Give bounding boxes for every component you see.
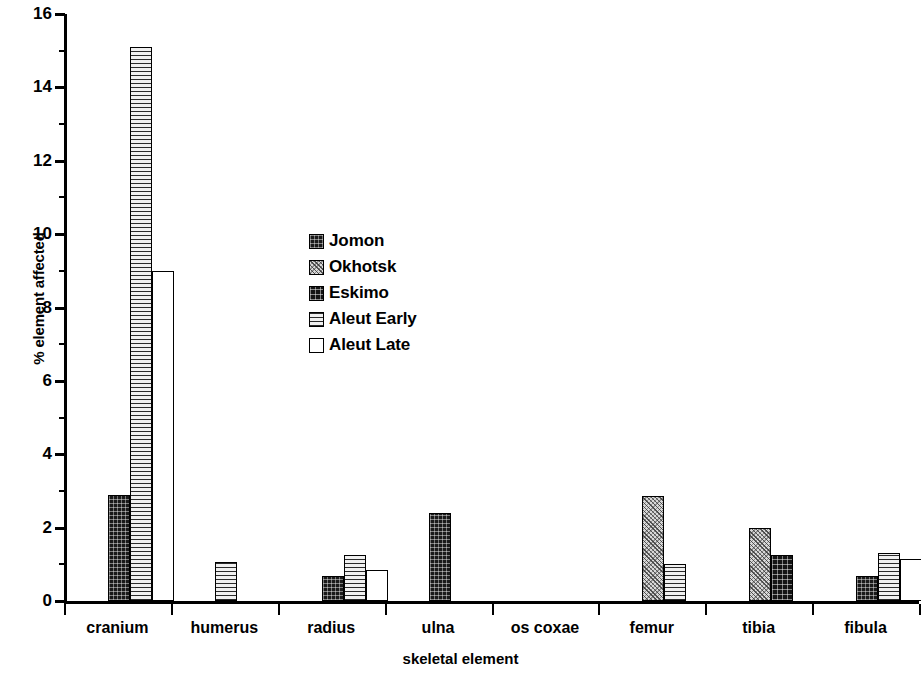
bar [322,576,344,601]
legend-item: Aleut Late [309,332,417,358]
y-axis-minor-tick [59,563,65,565]
x-axis-tick-label: ulna [422,619,455,637]
bar [900,559,921,601]
legend-item-label: Aleut Late [329,335,410,355]
y-axis-minor-tick [59,123,65,125]
y-axis-minor-tick [59,270,65,272]
y-axis-tick [55,307,65,310]
y-axis-tick [55,380,65,383]
y-axis-minor-tick [59,417,65,419]
bar [130,47,152,601]
legend-swatch-icon [309,312,324,327]
y-axis-minor-tick [59,196,65,198]
bar-chart-figure: % element affected 0246810121416 skeleta… [0,0,921,674]
x-axis-tick-label: humerus [191,619,259,637]
x-axis-tick-label: radius [307,619,355,637]
bar [771,555,793,601]
x-axis-tick [812,604,814,615]
bar [108,495,130,601]
bar [152,271,174,601]
bar [344,555,366,601]
legend-item: Jomon [309,228,417,254]
y-axis-minor-tick [59,50,65,52]
bar [749,528,771,601]
legend-swatch-icon [309,260,324,275]
bar [664,564,686,601]
y-axis-tick [55,453,65,456]
plot-area [0,0,921,674]
x-axis-tick [385,604,387,615]
x-axis-tick-label: tibia [742,619,775,637]
x-axis-tick [705,604,707,615]
x-axis-tick [598,604,600,615]
x-axis-tick-label: femur [630,619,674,637]
legend-item: Okhotsk [309,254,417,280]
y-axis-tick [55,13,65,16]
x-axis-title: skeletal element [0,650,921,667]
legend-item-label: Eskimo [329,283,389,303]
bar [642,496,664,601]
legend: JomonOkhotskEskimoAleut EarlyAleut Late [309,228,417,358]
x-axis-tick-label: os coxae [511,619,579,637]
y-axis-minor-tick [59,490,65,492]
legend-swatch-icon [309,338,324,353]
bar [215,562,237,601]
y-axis-tick [55,600,65,603]
legend-item-label: Aleut Early [329,309,417,329]
bar [856,576,878,601]
y-axis-minor-tick [59,343,65,345]
bar [366,570,388,601]
legend-swatch-icon [309,234,324,249]
y-axis-tick [55,160,65,163]
x-axis-tick [492,604,494,615]
legend-item: Aleut Early [309,306,417,332]
bar [878,553,900,601]
legend-item: Eskimo [309,280,417,306]
y-axis-tick [55,233,65,236]
bar [429,513,451,601]
legend-item-label: Okhotsk [329,257,396,277]
y-axis-tick [55,527,65,530]
x-axis-tick-label: fibula [844,619,887,637]
legend-item-label: Jomon [329,231,384,251]
y-axis-tick [55,86,65,89]
x-axis-tick [171,604,173,615]
x-axis-tick-label: cranium [86,619,148,637]
legend-swatch-icon [309,286,324,301]
x-axis-tick [278,604,280,615]
x-axis-tick [64,604,66,615]
